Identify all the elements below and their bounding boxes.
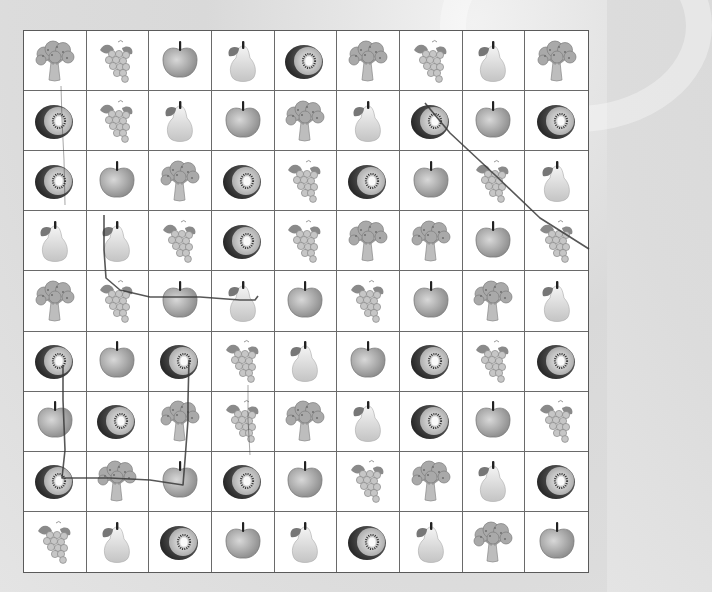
grid-cell[interactable] xyxy=(275,392,338,452)
grid-cell[interactable] xyxy=(24,271,87,331)
grid-cell[interactable] xyxy=(212,31,275,91)
grid-cell[interactable] xyxy=(149,31,212,91)
grid-cell[interactable] xyxy=(275,452,338,512)
grid-cell[interactable] xyxy=(337,31,400,91)
grid-cell[interactable] xyxy=(212,211,275,271)
grid-cell[interactable] xyxy=(212,332,275,392)
pear-icon xyxy=(468,36,518,86)
broccoli-icon xyxy=(30,276,80,326)
grid-cell[interactable] xyxy=(24,512,87,572)
broccoli-icon xyxy=(155,396,205,446)
grid-cell[interactable] xyxy=(337,91,400,151)
grid-cell[interactable] xyxy=(24,151,87,211)
grid-cell[interactable] xyxy=(275,151,338,211)
grid-cell[interactable] xyxy=(400,271,463,331)
grid-cell[interactable] xyxy=(525,31,588,91)
grid-cell[interactable] xyxy=(463,392,526,452)
pear-icon xyxy=(155,96,205,146)
grid-cell[interactable] xyxy=(337,512,400,572)
grid-cell[interactable] xyxy=(275,31,338,91)
grid-cell[interactable] xyxy=(149,512,212,572)
grid-cell[interactable] xyxy=(212,91,275,151)
grid-cell[interactable] xyxy=(24,31,87,91)
grid-cell[interactable] xyxy=(149,211,212,271)
apple-icon xyxy=(155,36,205,86)
kiwi-icon xyxy=(280,36,330,86)
grid-cell[interactable] xyxy=(87,91,150,151)
grid-cell[interactable] xyxy=(275,211,338,271)
grid-cell[interactable] xyxy=(87,332,150,392)
grapes-icon xyxy=(532,216,582,266)
grid-cell[interactable] xyxy=(400,452,463,512)
grid-cell[interactable] xyxy=(87,452,150,512)
grid-cell[interactable] xyxy=(87,211,150,271)
grid-cell[interactable] xyxy=(275,512,338,572)
grid-cell[interactable] xyxy=(275,332,338,392)
grid-cell[interactable] xyxy=(24,452,87,512)
grapes-icon xyxy=(218,396,268,446)
grid-cell[interactable] xyxy=(212,512,275,572)
grid-cell[interactable] xyxy=(463,211,526,271)
grid-cell[interactable] xyxy=(87,271,150,331)
apple-icon xyxy=(92,336,142,386)
grid-cell[interactable] xyxy=(400,31,463,91)
grid-cell[interactable] xyxy=(149,91,212,151)
grid-cell[interactable] xyxy=(337,332,400,392)
grid-cell[interactable] xyxy=(275,91,338,151)
kiwi-icon xyxy=(155,336,205,386)
grid-cell[interactable] xyxy=(463,332,526,392)
grid-cell[interactable] xyxy=(87,512,150,572)
grid-cell[interactable] xyxy=(212,392,275,452)
grid-cell[interactable] xyxy=(337,151,400,211)
grid-cell[interactable] xyxy=(275,271,338,331)
grid-cell[interactable] xyxy=(463,31,526,91)
grid-cell[interactable] xyxy=(525,151,588,211)
grid-cell[interactable] xyxy=(463,91,526,151)
grid-cell[interactable] xyxy=(337,452,400,512)
grid-cell[interactable] xyxy=(525,512,588,572)
grid-cell[interactable] xyxy=(337,392,400,452)
grid-cell[interactable] xyxy=(400,392,463,452)
grid-cell[interactable] xyxy=(149,452,212,512)
grid-cell[interactable] xyxy=(525,332,588,392)
grid-cell[interactable] xyxy=(149,392,212,452)
grapes-icon xyxy=(468,156,518,206)
kiwi-icon xyxy=(532,336,582,386)
grid-cell[interactable] xyxy=(212,452,275,512)
grid-cell[interactable] xyxy=(149,151,212,211)
grid-cell[interactable] xyxy=(87,31,150,91)
grid-cell[interactable] xyxy=(400,512,463,572)
grid-cell[interactable] xyxy=(149,271,212,331)
grid-cell[interactable] xyxy=(525,452,588,512)
apple-icon xyxy=(343,336,393,386)
grid-cell[interactable] xyxy=(463,512,526,572)
grid-cell[interactable] xyxy=(463,271,526,331)
grid-cell[interactable] xyxy=(400,151,463,211)
grid-cell[interactable] xyxy=(337,211,400,271)
broccoli-icon xyxy=(406,216,456,266)
grid-cell[interactable] xyxy=(24,211,87,271)
grid-cell[interactable] xyxy=(463,452,526,512)
grid-cell[interactable] xyxy=(149,332,212,392)
grid-cell[interactable] xyxy=(212,271,275,331)
grid-cell[interactable] xyxy=(525,91,588,151)
grid-cell[interactable] xyxy=(24,392,87,452)
kiwi-icon xyxy=(406,336,456,386)
grid-cell[interactable] xyxy=(525,392,588,452)
grid-cell[interactable] xyxy=(400,211,463,271)
apple-icon xyxy=(468,396,518,446)
grid-cell[interactable] xyxy=(212,151,275,211)
grid-cell[interactable] xyxy=(24,91,87,151)
grid-cell[interactable] xyxy=(337,271,400,331)
kiwi-icon xyxy=(30,336,80,386)
grid-cell[interactable] xyxy=(525,211,588,271)
kiwi-icon xyxy=(532,456,582,506)
grid-cell[interactable] xyxy=(400,91,463,151)
grid-cell[interactable] xyxy=(525,271,588,331)
grapes-icon xyxy=(406,36,456,86)
grid-cell[interactable] xyxy=(87,392,150,452)
grid-cell[interactable] xyxy=(87,151,150,211)
grid-cell[interactable] xyxy=(24,332,87,392)
grid-cell[interactable] xyxy=(463,151,526,211)
grid-cell[interactable] xyxy=(400,332,463,392)
